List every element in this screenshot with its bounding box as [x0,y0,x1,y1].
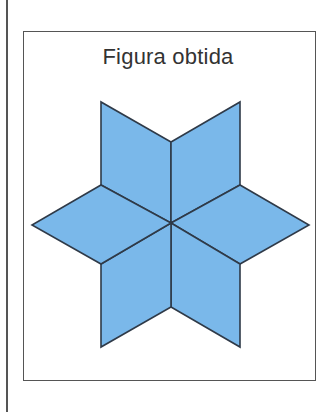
star-figure [0,0,336,412]
